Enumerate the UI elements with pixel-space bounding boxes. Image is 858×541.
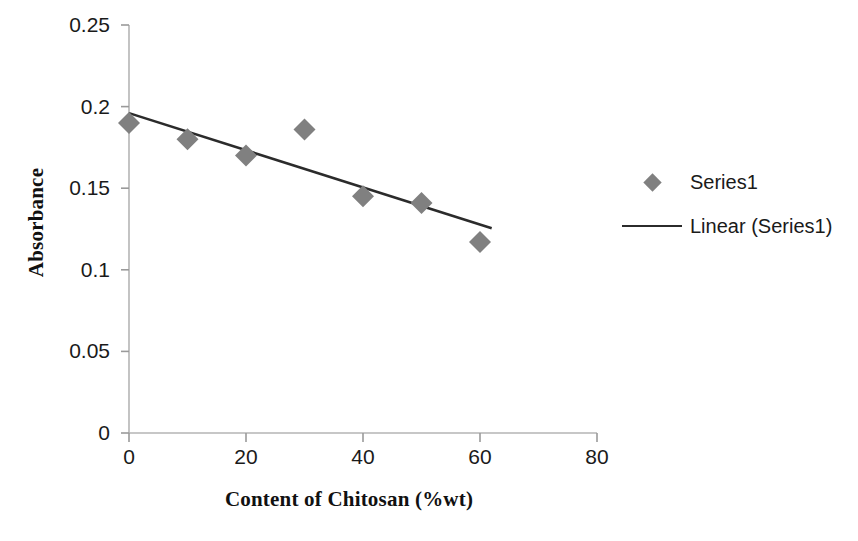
x-axis-tick-label: 0 <box>89 446 169 467</box>
x-axis-tick-label: 80 <box>557 446 637 467</box>
y-axis-tick-label: 0.1 <box>40 259 110 280</box>
legend-item-label: Linear (Series1) <box>690 215 832 238</box>
chart-figure: 00.050.10.150.20.25 020406080 Absorbance… <box>0 0 858 541</box>
y-axis-tick-label: 0.15 <box>40 177 110 198</box>
legend-diamond-icon <box>614 176 690 189</box>
x-axis-tick-label: 40 <box>323 446 403 467</box>
x-axis-tick-label: 60 <box>440 446 520 467</box>
y-axis-tick-label: 0.2 <box>40 96 110 117</box>
x-axis-tick-label: 20 <box>206 446 286 467</box>
legend-item: Linear (Series1) <box>614 204 858 248</box>
legend-item-label: Series1 <box>690 171 758 194</box>
y-axis-title: Absorbance <box>24 123 49 323</box>
line-icon <box>622 225 682 227</box>
y-axis-tick-label: 0.25 <box>40 14 110 35</box>
y-axis-tick-label: 0 <box>40 422 110 443</box>
legend-item: Series1 <box>614 160 858 204</box>
diamond-icon <box>643 173 661 191</box>
chart-legend: Series1Linear (Series1) <box>614 160 858 248</box>
legend-line-icon <box>614 225 690 227</box>
y-axis-tick-label: 0.05 <box>40 340 110 361</box>
x-axis-title: Content of Chitosan (%wt) <box>129 487 569 512</box>
